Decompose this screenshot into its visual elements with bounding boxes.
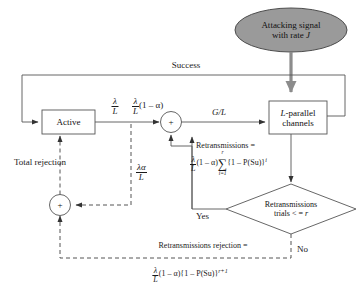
attack-signal-label: Attacking signal with rate J [235, 14, 347, 46]
total-rejection-label: Total rejection [14, 158, 66, 167]
decision-line1: Retransmissions [265, 200, 317, 209]
decision-line2: trials < = r [274, 209, 308, 218]
retransmissions-body: {1 – P(Su)} [227, 158, 265, 167]
attack-signal-line2: with rate J [272, 30, 310, 40]
sum-bottom-symbol: + [50, 195, 71, 216]
lambda-alpha-over-L-label: λα L [136, 162, 147, 181]
yes-join-to-sum [171, 146, 192, 209]
retransmissions-rejection-heading: Retransmissions rejection = [159, 242, 248, 250]
lambda-over-L-one-minus-alpha-label: λ L (1 – α) [132, 96, 163, 115]
retransmissions-rejection-formula: λ L (1 – α){1 – P(Su)}r+1 [152, 266, 227, 283]
retransmissions-formula: λ L (1 – α)r∑i=1{1 – P(Su)}i [190, 155, 267, 172]
rejection-body: {1 – P(Su)} [180, 269, 218, 278]
decision-label: Retransmissions trials < = r [241, 194, 341, 224]
diagram-canvas: Attacking signal with rate J Success Act… [0, 0, 364, 298]
lambda-over-L-fraction-2: λ L [132, 97, 139, 116]
rejection-fraction: λ L [152, 267, 158, 284]
success-label: Success [172, 61, 201, 70]
rejection-factor: (1 – α) [159, 269, 181, 278]
retransmissions-exponent: i [265, 157, 267, 163]
retransmissions-fraction: λ L [190, 156, 196, 173]
no-label: No [297, 245, 308, 254]
yes-label: Yes [196, 212, 209, 221]
summation-operator: r∑i=1 [218, 157, 227, 170]
lambda-over-L-fraction: λ L [111, 97, 118, 116]
channels-line1: L-parallel [281, 108, 316, 118]
channels-box-label: L-parallel channels [269, 101, 327, 134]
sum-top-symbol: + [161, 112, 182, 133]
lambda-over-L-label: λ L [111, 96, 118, 115]
lambda-alpha-over-L-fraction: λα L [136, 163, 147, 182]
lambda-alpha-dashed-path [76, 124, 131, 205]
attack-signal-line1: Attacking signal [261, 20, 320, 30]
one-minus-alpha-text: (1 – α) [139, 100, 163, 110]
g-over-l-label: G/L [212, 108, 226, 117]
rejection-exponent: r+1 [218, 268, 227, 274]
attack-rate-symbol: J [306, 30, 310, 40]
active-box-label: Active [42, 110, 95, 134]
retransmissions-factor: (1 – α) [196, 158, 218, 167]
channels-line2: channels [282, 118, 314, 128]
